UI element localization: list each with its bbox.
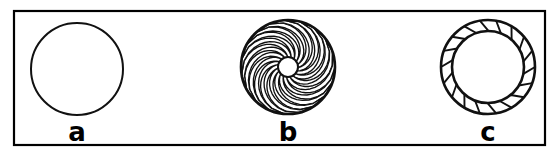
figure-container: a b c [0,0,559,156]
caption-b: b [279,117,298,147]
caption-a: a [68,117,86,147]
caption-c: c [480,117,495,147]
figure-drawing: a b c [0,0,559,156]
